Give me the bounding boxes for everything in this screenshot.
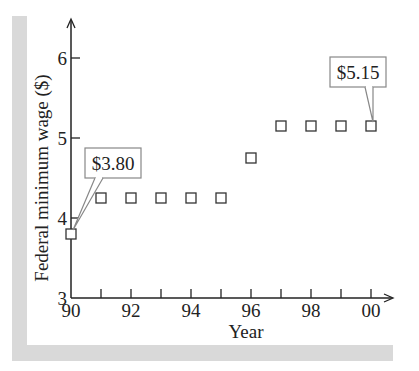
ticks: 9092949698003456	[58, 48, 381, 321]
data-point-marker	[276, 121, 286, 131]
x-axis-title: Year	[228, 321, 264, 342]
data-points	[66, 121, 376, 239]
callout-label: $5.15	[337, 62, 380, 83]
data-point-marker	[366, 121, 376, 131]
data-point-marker	[186, 193, 196, 203]
x-tick-label: 94	[182, 300, 202, 321]
callouts: $3.80$5.15	[73, 57, 386, 230]
callout-pointer	[73, 178, 103, 230]
data-point-marker	[246, 153, 256, 163]
x-tick-label: 92	[122, 300, 141, 321]
data-point-marker	[216, 193, 226, 203]
data-point-marker	[336, 121, 346, 131]
y-tick-label: 3	[58, 288, 68, 309]
y-tick-label: 6	[58, 48, 68, 69]
y-axis-title: Federal minimum wage ($)	[31, 74, 53, 281]
data-point-marker	[156, 193, 166, 203]
data-point-marker	[66, 229, 76, 239]
x-tick-label: 98	[302, 300, 321, 321]
y-tick-label: 4	[58, 208, 68, 229]
data-point-marker	[306, 121, 316, 131]
data-point-marker	[126, 193, 136, 203]
callout-pointer	[365, 87, 373, 122]
scatter-chart: 9092949698003456 $3.80$5.15 Year Federal…	[0, 0, 419, 371]
x-tick-label: 96	[242, 300, 261, 321]
callout-label: $3.80	[92, 153, 135, 174]
y-tick-label: 5	[58, 128, 68, 149]
data-point-marker	[96, 193, 106, 203]
x-tick-label: 00	[362, 300, 381, 321]
